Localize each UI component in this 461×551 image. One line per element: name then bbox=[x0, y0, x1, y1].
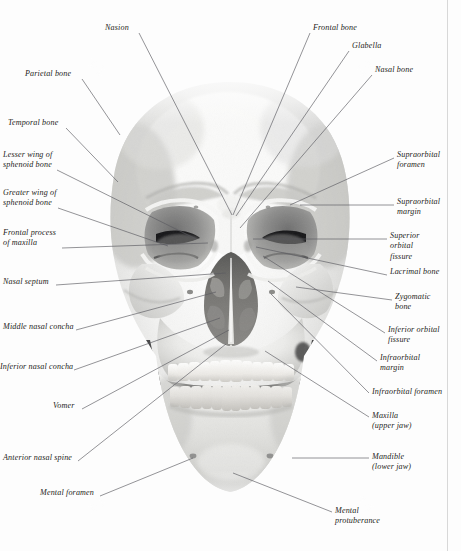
label-infraorbital-margin: Infraorbitalmargin bbox=[380, 353, 420, 374]
skull-body bbox=[96, 70, 366, 500]
label-infraorbital-foramen: Infraorbital foramen bbox=[372, 387, 442, 397]
label-line: Frontal process bbox=[3, 228, 56, 238]
label-line: margin bbox=[380, 363, 420, 373]
label-line: (upper jaw) bbox=[372, 421, 412, 431]
label-line: Supraorbital bbox=[397, 150, 440, 160]
label-nasal-septum: Nasal septum bbox=[3, 277, 49, 287]
label-line: Vomer bbox=[53, 401, 74, 411]
label-greater-wing-sphenoid: Greater wing ofsphenoid bone bbox=[3, 188, 57, 209]
label-line: Inferior nasal concha bbox=[0, 362, 73, 372]
label-zygomatic-bone: Zygomaticbone bbox=[395, 292, 431, 313]
label-line: fissure bbox=[390, 252, 420, 262]
label-line: fissure bbox=[388, 335, 440, 345]
label-line: Anterior nasal spine bbox=[3, 453, 72, 463]
label-superior-orbital-fissure: Superiororbitalfissure bbox=[390, 231, 420, 262]
label-line: Glabella bbox=[352, 41, 382, 51]
label-inferior-nasal-concha: Inferior nasal concha bbox=[0, 362, 73, 372]
label-lesser-wing-sphenoid: Lesser wing ofsphenoid bone bbox=[3, 150, 52, 171]
label-line: sphenoid bone bbox=[3, 160, 52, 170]
label-line: Infraorbital foramen bbox=[372, 387, 442, 397]
label-vomer: Vomer bbox=[53, 401, 74, 411]
label-line: Parietal bone bbox=[25, 69, 71, 79]
label-line: orbital bbox=[390, 241, 420, 251]
mandible-bottom-fade bbox=[100, 470, 362, 504]
label-frontal-bone: Frontal bone bbox=[313, 23, 357, 33]
label-line: Mandible bbox=[372, 452, 411, 462]
label-inferior-orbital-fissure: Inferior orbitalfissure bbox=[388, 325, 440, 346]
label-line: sphenoid bone bbox=[3, 198, 57, 208]
label-line: Nasal septum bbox=[3, 277, 49, 287]
label-line: foramen bbox=[397, 160, 440, 170]
label-line: Greater wing of bbox=[3, 188, 57, 198]
label-line: of maxilla bbox=[3, 238, 56, 248]
film-grain bbox=[100, 70, 362, 500]
label-line: protuberance bbox=[335, 516, 380, 526]
label-supraorbital-foramen: Supraorbitalforamen bbox=[397, 150, 440, 171]
label-line: Mental foramen bbox=[40, 488, 94, 498]
label-line: Lacrimal bone bbox=[390, 267, 439, 277]
label-temporal-bone: Temporal bone bbox=[8, 118, 58, 128]
label-maxilla: Maxilla(upper jaw) bbox=[372, 411, 412, 432]
illustration-page: NasionParietal boneTemporal boneLesser w… bbox=[0, 0, 461, 551]
label-mental-foramen: Mental foramen bbox=[40, 488, 94, 498]
label-anterior-nasal-spine: Anterior nasal spine bbox=[3, 453, 72, 463]
label-line: Temporal bone bbox=[8, 118, 58, 128]
label-mandible: Mandible(lower jaw) bbox=[372, 452, 411, 473]
label-supraorbital-margin: Supraorbitalmargin bbox=[397, 197, 440, 218]
label-line: Maxilla bbox=[372, 411, 412, 421]
page-margin-rule bbox=[447, 0, 448, 551]
label-line: Infraorbital bbox=[380, 353, 420, 363]
label-nasal-bone: Nasal bone bbox=[375, 65, 413, 75]
label-line: bone bbox=[395, 302, 431, 312]
label-line: Inferior orbital bbox=[388, 325, 440, 335]
label-line: margin bbox=[397, 207, 440, 217]
label-mental-protuberance: Mentalprotuberance bbox=[335, 506, 380, 527]
label-frontal-process-maxilla: Frontal processof maxilla bbox=[3, 228, 56, 249]
label-nasion: Nasion bbox=[105, 23, 129, 33]
label-middle-nasal-concha: Middle nasal concha bbox=[3, 322, 74, 332]
cranium-top-fade bbox=[100, 70, 362, 124]
label-line: Nasion bbox=[105, 23, 129, 33]
label-line: Frontal bone bbox=[313, 23, 357, 33]
label-lacrimal-bone: Lacrimal bone bbox=[390, 267, 439, 277]
label-line: Nasal bone bbox=[375, 65, 413, 75]
label-line: Supraorbital bbox=[397, 197, 440, 207]
label-parietal-bone: Parietal bone bbox=[25, 69, 71, 79]
label-glabella: Glabella bbox=[352, 41, 382, 51]
label-line: Middle nasal concha bbox=[3, 322, 74, 332]
label-line: (lower jaw) bbox=[372, 462, 411, 472]
label-line: Zygomatic bbox=[395, 292, 431, 302]
label-line: Mental bbox=[335, 506, 380, 516]
label-line: Lesser wing of bbox=[3, 150, 52, 160]
label-line: Superior bbox=[390, 231, 420, 241]
